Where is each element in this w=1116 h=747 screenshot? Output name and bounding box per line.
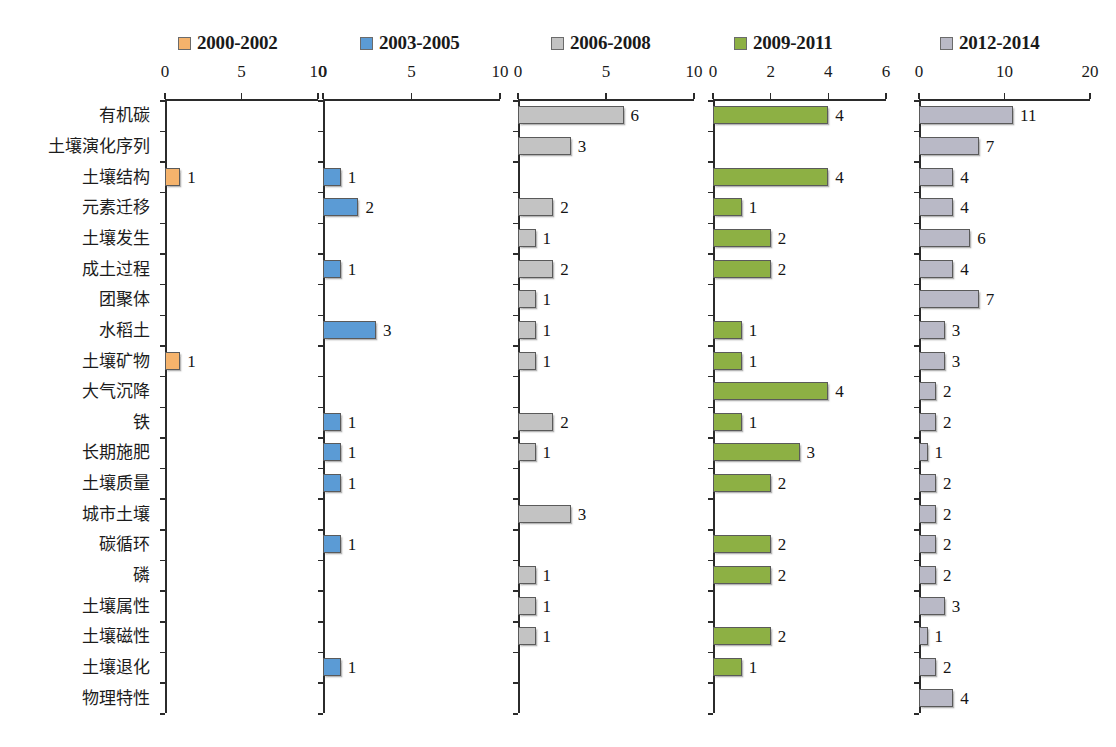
- multi-panel-bar-chart: 2000-20022003-20052006-20082009-20112012…: [0, 0, 1116, 747]
- x-axis-tick-label: 10: [996, 62, 1013, 82]
- bar-value-label: 2: [943, 659, 952, 676]
- y-axis-tick: [914, 284, 919, 286]
- bar-value-label: 2: [943, 506, 952, 523]
- y-axis-tick: [914, 100, 919, 102]
- bar-2012-2014-土壤结构[interactable]: [919, 168, 953, 186]
- y-axis-tick: [914, 345, 919, 347]
- bar-value-label: 7: [986, 138, 995, 155]
- bar-2012-2014-磷[interactable]: [919, 566, 936, 584]
- y-axis-tick: [914, 621, 919, 623]
- x-axis-tick: [1089, 93, 1091, 99]
- y-axis-tick: [914, 652, 919, 654]
- bar-value-label: 2: [943, 536, 952, 553]
- y-axis-tick: [914, 192, 919, 194]
- bar-2012-2014-物理特性[interactable]: [919, 689, 953, 707]
- bar-2012-2014-有机碳[interactable]: [919, 106, 1013, 124]
- y-axis-tick: [914, 529, 919, 531]
- bar-value-label: 6: [977, 230, 986, 247]
- y-axis-tick: [914, 253, 919, 255]
- bar-value-label: 3: [952, 598, 961, 615]
- y-axis-tick: [914, 131, 919, 133]
- x-axis-tick-label: 0: [915, 62, 924, 82]
- bar-value-label: 4: [960, 690, 969, 707]
- bar-2012-2014-土壤发生[interactable]: [919, 229, 970, 247]
- bar-value-label: 2: [943, 475, 952, 492]
- y-axis-tick: [914, 161, 919, 163]
- bar-value-label: 4: [960, 261, 969, 278]
- y-axis-tick: [914, 560, 919, 562]
- bar-2012-2014-成土过程[interactable]: [919, 260, 953, 278]
- bar-value-label: 3: [952, 353, 961, 370]
- bar-2012-2014-大气沉降[interactable]: [919, 382, 936, 400]
- bar-value-label: 2: [943, 567, 952, 584]
- bar-2012-2014-土壤演化序列[interactable]: [919, 137, 979, 155]
- y-axis-tick: [914, 223, 919, 225]
- bar-2012-2014-碳循环[interactable]: [919, 535, 936, 553]
- bar-value-label: 4: [960, 169, 969, 186]
- y-axis-tick: [914, 498, 919, 500]
- x-axis-tick: [1004, 93, 1006, 99]
- x-axis-tick: [918, 93, 920, 99]
- bar-2012-2014-元素迁移[interactable]: [919, 198, 953, 216]
- bar-2012-2014-土壤退化[interactable]: [919, 658, 936, 676]
- bar-2012-2014-水稻土[interactable]: [919, 321, 945, 339]
- panel-2012-2014: 01020117446473322122223124: [0, 0, 1116, 747]
- panel-top-axis: [919, 99, 1090, 101]
- bar-value-label: 3: [952, 322, 961, 339]
- bar-value-label: 4: [960, 199, 969, 216]
- bar-value-label: 7: [986, 291, 995, 308]
- bar-2012-2014-土壤矿物[interactable]: [919, 352, 945, 370]
- bar-2012-2014-铁[interactable]: [919, 413, 936, 431]
- y-axis-tick: [914, 376, 919, 378]
- bar-2012-2014-土壤属性[interactable]: [919, 597, 945, 615]
- bar-2012-2014-长期施肥[interactable]: [919, 443, 928, 461]
- y-axis-tick: [914, 468, 919, 470]
- y-axis-tick: [914, 437, 919, 439]
- y-axis-tick: [914, 407, 919, 409]
- bar-value-label: 2: [943, 414, 952, 431]
- bar-2012-2014-城市土壤[interactable]: [919, 505, 936, 523]
- y-axis-tick: [914, 713, 919, 715]
- bar-value-label: 2: [943, 383, 952, 400]
- y-axis-line: [919, 100, 921, 713]
- y-axis-tick: [914, 315, 919, 317]
- bar-2012-2014-土壤质量[interactable]: [919, 474, 936, 492]
- bar-2012-2014-土壤磁性[interactable]: [919, 627, 928, 645]
- y-axis-tick: [914, 590, 919, 592]
- bar-value-label: 11: [1020, 107, 1036, 124]
- bar-value-label: 1: [935, 628, 944, 645]
- x-axis-tick-label: 20: [1082, 62, 1099, 82]
- bar-value-label: 1: [935, 444, 944, 461]
- bar-2012-2014-团聚体[interactable]: [919, 290, 979, 308]
- y-axis-tick: [914, 682, 919, 684]
